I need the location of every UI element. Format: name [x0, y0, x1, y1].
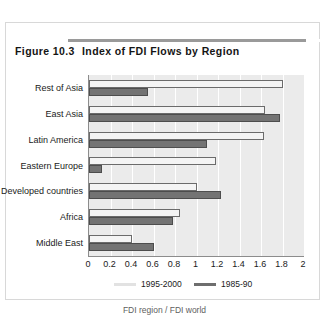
figure-title: Index of FDI Flows by Region — [82, 45, 240, 57]
x-axis-tick-labels: 00.20.40.60.811.21.41.61.82 — [6, 259, 321, 273]
bar — [89, 183, 197, 191]
legend-label: 1995-2000 — [141, 279, 182, 289]
chart-legend: 1995-20001985-90 — [6, 279, 321, 293]
bar-group — [89, 101, 304, 127]
x-tick-label: 0 — [85, 259, 90, 269]
bar — [89, 106, 265, 114]
gridline — [304, 75, 305, 256]
bar — [89, 80, 283, 88]
figure-header: Figure 10.3 Index of FDI Flows by Region — [6, 45, 321, 63]
bar — [89, 217, 173, 225]
figure-footnote: FDI region / FDI world — [0, 305, 329, 319]
bar-group — [89, 153, 304, 179]
category-label: East Asia — [45, 109, 83, 119]
category-label: Eastern Europe — [20, 161, 83, 171]
x-tick-label: 1 — [193, 259, 198, 269]
legend-swatch — [194, 283, 216, 286]
chart: Rest of AsiaEast AsiaLatin AmericaEaster… — [6, 71, 321, 301]
figure-card: Figure 10.3 Index of FDI Flows by Region… — [5, 22, 320, 300]
bar-group — [89, 178, 304, 204]
legend-swatch — [114, 283, 136, 286]
bar — [89, 132, 264, 140]
bar — [89, 243, 154, 251]
x-tick-label: 0.8 — [168, 259, 181, 269]
x-tick-label: 1.4 — [232, 259, 245, 269]
bar-group — [89, 204, 304, 230]
category-label: Africa — [60, 212, 83, 222]
legend-item[interactable]: 1985-90 — [194, 279, 252, 289]
bar-group — [89, 75, 304, 101]
bar — [89, 209, 180, 217]
legend-label: 1985-90 — [221, 279, 252, 289]
x-axis-line — [88, 256, 304, 257]
legend-item[interactable]: 1995-2000 — [114, 279, 182, 289]
category-label: Rest of Asia — [35, 83, 83, 93]
bar — [89, 165, 102, 173]
y-axis-category-labels: Rest of AsiaEast AsiaLatin AmericaEaster… — [6, 75, 86, 256]
x-tick-label: 1.2 — [211, 259, 224, 269]
bar — [89, 191, 221, 199]
x-tick-label: 2 — [300, 259, 305, 269]
bar — [89, 140, 207, 148]
title-divider — [6, 39, 321, 42]
x-tick-label: 1.8 — [275, 259, 288, 269]
x-tick-label: 1.6 — [254, 259, 267, 269]
category-label: Developed countries — [1, 186, 83, 196]
x-tick-label: 0.6 — [146, 259, 159, 269]
bar — [89, 235, 132, 243]
x-tick-label: 0.2 — [103, 259, 116, 269]
category-label: Middle East — [36, 238, 83, 248]
bar-group — [89, 230, 304, 256]
plot-area — [88, 75, 304, 256]
figure-number: Figure 10.3 — [15, 45, 75, 57]
bar-group — [89, 127, 304, 153]
bar — [89, 157, 216, 165]
bar — [89, 88, 148, 96]
category-label: Latin America — [28, 135, 83, 145]
x-tick-label: 0.4 — [125, 259, 138, 269]
bar — [89, 114, 280, 122]
